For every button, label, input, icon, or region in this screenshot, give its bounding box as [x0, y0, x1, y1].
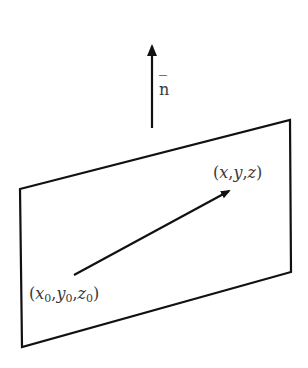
coord-x: x: [219, 163, 228, 182]
diagram-svg: [0, 0, 308, 368]
start-point-label: (x0,y0,z0): [29, 284, 99, 305]
position-vector-arrow: [74, 191, 229, 275]
coord-z: z: [248, 163, 256, 182]
coord-z0: z: [78, 284, 86, 303]
normal-label: ‾ n: [159, 80, 169, 99]
plane-parallelogram: [20, 120, 291, 347]
paren-close: ): [93, 284, 99, 303]
paren-close: ): [256, 163, 262, 182]
subscript: 0: [86, 292, 93, 305]
diagram-canvas: ‾ n (x,y,z) (x0,y0,z0): [0, 0, 308, 368]
normal-bar: ‾: [159, 73, 167, 92]
coord-x0: x: [35, 284, 44, 303]
end-point-label: (x,y,z): [213, 163, 262, 182]
